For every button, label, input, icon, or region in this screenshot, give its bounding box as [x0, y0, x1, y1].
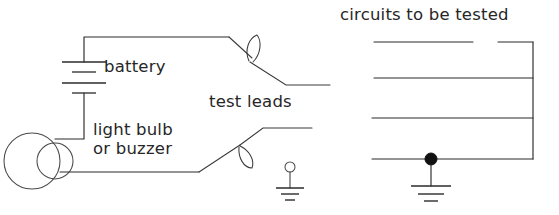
junction-dot [425, 153, 437, 165]
lower-lead-wire-out [240, 128, 312, 145]
terminal-open-circle [285, 162, 295, 172]
battery-label: battery [104, 57, 166, 76]
upper-lead-loop [247, 35, 260, 62]
test-leads-label: test leads [209, 92, 292, 111]
upper-lead-wire-out [250, 62, 330, 85]
lower-lead-wire-in [199, 145, 240, 172]
bulb-inner-circle [37, 143, 73, 179]
lower-lead-loop [239, 146, 253, 168]
upper-test-lead [229, 35, 330, 85]
battery-bottom-lead [55, 93, 84, 139]
terminal-ground-symbol [276, 162, 304, 200]
circuits-to-be-tested-label: circuits to be tested [340, 5, 509, 24]
light-bulb-or-buzzer-label: light bulb or buzzer [93, 120, 173, 159]
circuit-ground-symbol [411, 153, 451, 201]
circuit-tester-diagram: battery light bulb or buzzer test leads … [0, 0, 559, 215]
bulb-outer-circle [4, 133, 60, 189]
upper-lead-wire-in [229, 37, 252, 58]
circuits-under-test [372, 42, 533, 159]
